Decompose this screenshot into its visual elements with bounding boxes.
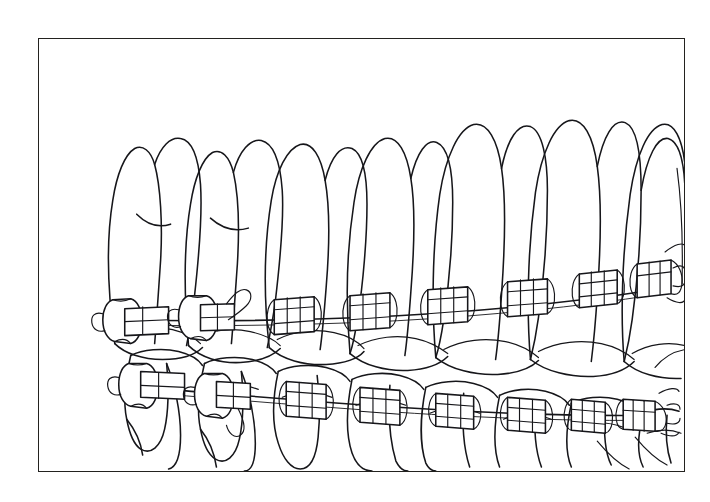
- lower-molar-band-1: [108, 363, 185, 408]
- upper-bracket-3: [267, 297, 321, 335]
- caption-fragment-line-2: t: [0, 481, 21, 498]
- upper-bracket-6: [500, 279, 554, 317]
- page-canvas: g t: [0, 0, 710, 502]
- upper-bracket-7: [572, 270, 624, 308]
- illustration-frame: [38, 38, 685, 472]
- lower-terminal-bracket: [616, 389, 680, 436]
- dental-arches-illustration: [39, 39, 684, 471]
- upper-terminal-bracket: [630, 244, 684, 303]
- upper-bracket-5: [421, 287, 475, 325]
- lower-bracket-7: [564, 399, 612, 433]
- lower-bracket-3: [279, 381, 333, 419]
- upper-molar-band-2: [167, 289, 250, 340]
- upper-arch-group: [92, 120, 684, 378]
- caption-fragment-line-1: g: [0, 430, 21, 447]
- lower-arch-group: [108, 349, 681, 471]
- lower-molar-band-2: [183, 373, 250, 436]
- lower-bracket-6: [500, 397, 552, 433]
- lower-bracket-4: [353, 387, 407, 425]
- upper-bracket-4: [343, 293, 397, 331]
- clipped-caption-fragment: g t: [0, 396, 21, 502]
- lower-bracket-5: [429, 393, 481, 429]
